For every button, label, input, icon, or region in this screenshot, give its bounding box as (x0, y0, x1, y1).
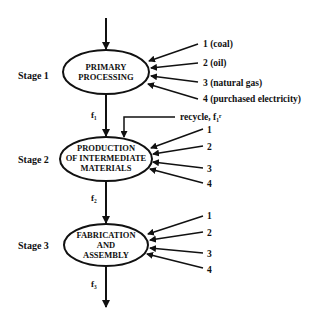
node-3-line-2: AND (97, 240, 115, 250)
node-1-line-2: PROCESSING (78, 72, 134, 82)
stage-2-input-3-label: 3 (207, 164, 212, 174)
stage-3-input-3-label: 3 (207, 249, 212, 259)
stage-3-input-4-arrow (147, 254, 203, 268)
stage-1-input-4-arrow (148, 84, 198, 99)
stage-3-input-4-label: 4 (207, 265, 212, 275)
stage-3-input-2-label: 2 (207, 228, 212, 238)
node-3-line-3: ASSEMBLY (83, 250, 129, 260)
recycle-arrow (124, 117, 175, 137)
stage-3-input-3-arrow (150, 248, 203, 253)
stage-3-input-1-arrow (148, 216, 203, 234)
stage-1-input-3-arrow (151, 76, 198, 82)
stage-1-input-4-label: 4 (purchased electricity) (203, 94, 301, 105)
node-2-line-3: MATERIALS (81, 163, 132, 173)
node-1-line-1: PRIMARY (86, 62, 127, 72)
process-flow-diagram: Stage 1 PRIMARY PROCESSING 1 (coal) 2 (o… (0, 0, 328, 322)
stage-2-input-3-arrow (153, 162, 203, 168)
f3-label: f₃ (91, 279, 97, 289)
stage-2-input-4-label: 4 (207, 179, 212, 189)
stage-2-label: Stage 2 (18, 154, 49, 165)
stage-1-input-2-arrow (151, 63, 198, 68)
node-3-line-1: FABRICATION (76, 230, 136, 240)
stage-2-input-2-arrow (153, 146, 203, 154)
stage-3-input-2-arrow (150, 232, 203, 240)
stage-3-input-1-label: 1 (207, 211, 212, 221)
recycle-label: recycle, f₁ʳ (180, 112, 222, 122)
f1-label: f₁ (91, 110, 97, 120)
stage-1-label: Stage 1 (18, 70, 49, 81)
f2-label: f₂ (91, 193, 97, 203)
stage-1-input-1-label: 1 (coal) (203, 39, 233, 50)
node-2-line-1: PRODUCTION (77, 143, 136, 153)
stage-2-input-1-label: 1 (207, 125, 212, 135)
stage-1-input-2-label: 2 (oil) (203, 58, 226, 69)
stage-3-label: Stage 3 (18, 240, 49, 251)
stage-1-input-1-arrow (149, 44, 198, 61)
stage-1-input-3-label: 3 (natural gas) (203, 78, 262, 89)
stage-2-input-4-arrow (150, 169, 203, 183)
stage-2-input-1-arrow (151, 129, 203, 148)
stage-2-input-2-label: 2 (207, 142, 212, 152)
node-2-line-2: OF INTERMEDIATE (66, 153, 147, 163)
